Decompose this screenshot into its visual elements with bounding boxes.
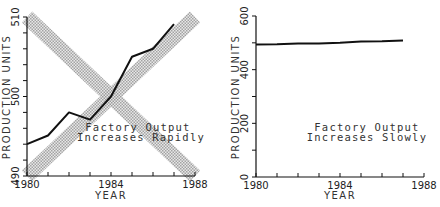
annotation-line-2: Increases Slowly (307, 131, 427, 143)
y-tick-label: 510 (10, 7, 21, 26)
y-tick-label: 0 (239, 174, 250, 180)
x-tick-label: 1988 (411, 180, 436, 191)
left-chart: 198019841988490500510 PRODUCTION UNITS Y… (1, 7, 208, 201)
x-axis-label: YEAR (94, 190, 127, 201)
x-axis-label: YEAR (323, 190, 356, 201)
right-chart: 1980198419880200400600 PRODUCTION UNITS … (230, 6, 437, 201)
x-tick-label: 1988 (182, 179, 207, 190)
chart-canvas: 198019841988490500510 PRODUCTION UNITS Y… (0, 0, 440, 207)
y-axis-label: PRODUCTION UNITS (1, 35, 12, 160)
y-tick-label: 490 (10, 166, 21, 185)
x-tick-label: 1984 (98, 179, 123, 190)
annotation-line-2: Increases Rapidly (77, 131, 205, 143)
tick-labels: 1980198419880200400600 (239, 6, 437, 191)
production-line (256, 40, 403, 44)
x-tick-label: 1980 (243, 180, 268, 191)
y-tick-label: 600 (239, 6, 250, 25)
y-axis-label: PRODUCTION UNITS (230, 35, 241, 160)
